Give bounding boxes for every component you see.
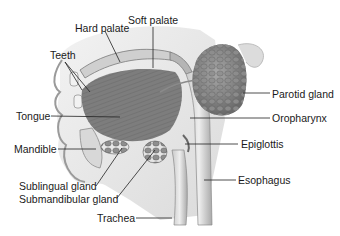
label-esophagus: Esophagus [238,174,291,186]
label-parotid-gland: Parotid gland [272,88,334,100]
sublingual-gland [101,140,129,154]
label-oropharynx: Oropharynx [272,112,327,124]
label-teeth: Teeth [50,49,76,61]
label-sublingual-gland: Sublingual gland [19,180,97,192]
submandibular-gland [143,141,167,163]
label-trachea: Trachea [97,212,135,224]
label-soft-palate: Soft palate [128,14,178,26]
anatomy-diagram: Soft palate Hard palate Teeth Tongue Man… [0,0,340,236]
tongue [82,69,182,141]
label-submandibular-gland: Submandibular gland [19,193,118,205]
label-tongue: Tongue [16,110,50,122]
label-epiglottis: Epiglottis [241,138,284,150]
label-hard-palate: Hard palate [75,22,129,34]
label-mandible: Mandible [14,143,57,155]
